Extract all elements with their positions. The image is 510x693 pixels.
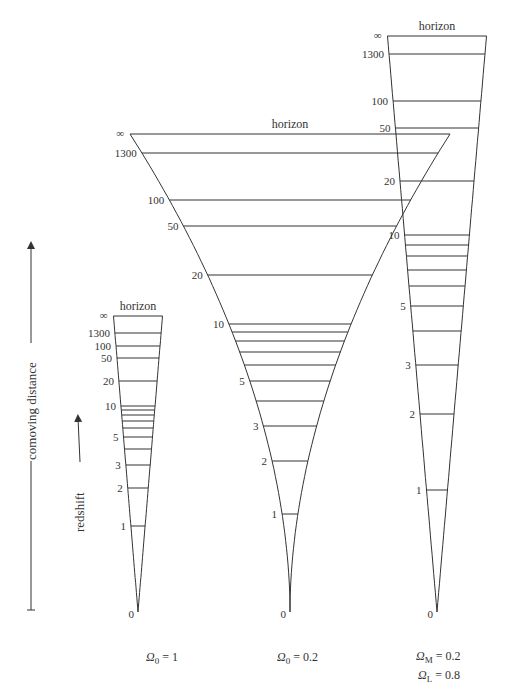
caption-omega-l: ΩL = 0.8 bbox=[416, 668, 460, 687]
cone-right-edge bbox=[437, 36, 487, 612]
cone-right-edge bbox=[138, 316, 163, 612]
omega-symbol: Ω bbox=[416, 649, 425, 663]
comoving-distance-label: comoving distance bbox=[24, 362, 40, 460]
omega-symbol: Ω bbox=[418, 668, 427, 682]
infinity-label: ∞ bbox=[100, 309, 108, 321]
cone-omega1: horizon∞130010050201053210 bbox=[88, 299, 163, 620]
caption-lambda: ΩM = 0.2 ΩL = 0.8 bbox=[416, 649, 460, 687]
omega-symbol: Ω bbox=[146, 650, 155, 664]
redshift-tick-label: 1 bbox=[272, 508, 278, 520]
omega-symbol: Ω bbox=[277, 650, 286, 664]
cone-lambda: horizon∞130010050201053210 bbox=[362, 19, 486, 620]
redshift-tick-label: 10 bbox=[389, 229, 401, 241]
cone-left-edge bbox=[388, 36, 438, 612]
redshift-tick-label: 100 bbox=[148, 194, 165, 206]
redshift-tick-label: 2 bbox=[262, 455, 268, 467]
redshift-tick-label: 5 bbox=[113, 431, 119, 443]
redshift-tick-label: 10 bbox=[105, 400, 117, 412]
redshift-label: redshift bbox=[72, 492, 88, 532]
caption-omega02: Ω0 = 0.2 bbox=[277, 650, 318, 666]
cones-layer: horizon∞130010050201053210horizon∞130010… bbox=[88, 19, 487, 620]
redshift-tick-label: 20 bbox=[384, 175, 396, 187]
redshift-tick-label: 0 bbox=[428, 608, 434, 620]
caption-omega1: Ω0 = 1 bbox=[146, 650, 178, 666]
redshift-tick-label: 5 bbox=[239, 375, 245, 387]
redshift-tick-label: 5 bbox=[400, 300, 406, 312]
redshift-tick-label: 2 bbox=[409, 408, 415, 420]
redshift-tick-label: 100 bbox=[94, 340, 111, 352]
redshift-tick-label: 20 bbox=[192, 269, 204, 281]
cosmology-cone-diagram: horizon∞130010050201053210horizon∞130010… bbox=[0, 0, 510, 693]
redshift-tick-label: 50 bbox=[101, 352, 113, 364]
redshift-tick-label: 3 bbox=[115, 459, 121, 471]
redshift-tick-label: 20 bbox=[103, 375, 115, 387]
redshift-tick-label: 10 bbox=[213, 318, 225, 330]
redshift-tick-label: 1300 bbox=[88, 327, 111, 339]
caption-omega-m: ΩM = 0.2 bbox=[416, 649, 460, 668]
caption-value: = 0.8 bbox=[432, 668, 460, 682]
redshift-tick-label: 1300 bbox=[362, 48, 385, 60]
cone-right-edge bbox=[290, 134, 450, 612]
redshift-tick-label: 1 bbox=[120, 520, 126, 532]
infinity-label: ∞ bbox=[374, 29, 382, 41]
redshift-tick-label: 0 bbox=[129, 608, 135, 620]
redshift-tick-label: 100 bbox=[372, 95, 389, 107]
horizon-label: horizon bbox=[120, 299, 157, 313]
redshift-tick-label: 1 bbox=[416, 484, 422, 496]
redshift-tick-label: 3 bbox=[253, 420, 259, 432]
redshift-tick-label: 3 bbox=[405, 359, 411, 371]
caption-value: = 0.2 bbox=[290, 650, 318, 664]
infinity-label: ∞ bbox=[116, 127, 124, 139]
cone-omega02: horizon∞130010050201053210 bbox=[115, 117, 450, 620]
subscript: M bbox=[425, 655, 433, 665]
redshift-tick-label: 0 bbox=[281, 608, 287, 620]
horizon-label: horizon bbox=[419, 19, 456, 33]
redshift-tick-label: 2 bbox=[117, 482, 123, 494]
caption-value: = 0.2 bbox=[433, 649, 461, 663]
caption-value: = 1 bbox=[159, 650, 178, 664]
redshift-tick-label: 1300 bbox=[115, 147, 138, 159]
redshift-tick-label: 50 bbox=[167, 220, 179, 232]
horizon-label: horizon bbox=[272, 117, 309, 131]
redshift-arrow bbox=[78, 418, 80, 462]
redshift-tick-label: 50 bbox=[379, 122, 391, 134]
